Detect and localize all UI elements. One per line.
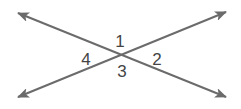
- angle-label-3: 3: [117, 63, 126, 80]
- angle-label-4: 4: [81, 51, 90, 68]
- angle-label-1: 1: [115, 33, 124, 50]
- intersecting-lines-diagram: [0, 0, 241, 109]
- angle-label-2: 2: [152, 51, 161, 68]
